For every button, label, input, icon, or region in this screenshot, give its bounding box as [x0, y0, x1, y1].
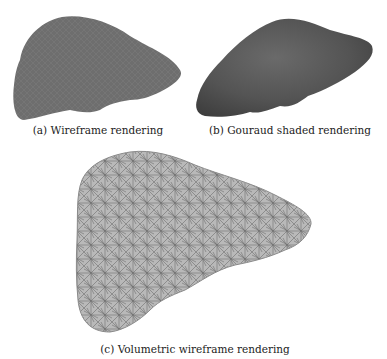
- gouraud-liver-shape: [196, 19, 373, 117]
- wireframe-liver-shape: [13, 16, 181, 120]
- caption-b: (b) Gouraud shaded rendering: [200, 124, 380, 136]
- caption-a: (a) Wireframe rendering: [18, 124, 178, 136]
- caption-c: (c) Volumetric wireframe rendering: [90, 343, 300, 355]
- figure-canvas: [0, 0, 387, 359]
- volumetric-liver-shape: [76, 151, 311, 332]
